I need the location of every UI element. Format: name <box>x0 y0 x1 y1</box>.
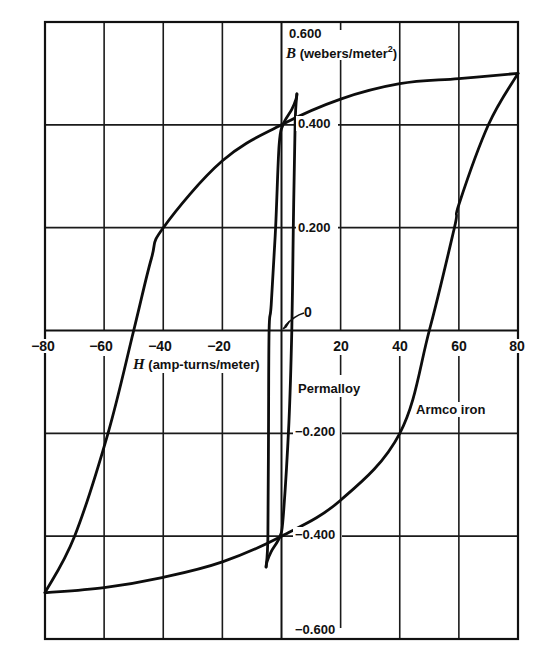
x-axis-unit: (amp-turns/meter) <box>148 357 259 372</box>
series-label-permalloy: Permalloy <box>296 381 362 396</box>
x-axis-variable: H <box>133 356 145 372</box>
y-tick-neg-0.200: −0.200 <box>293 424 337 439</box>
x-tick-40: 40 <box>391 339 409 353</box>
x-tick-neg-80: −80 <box>30 339 56 353</box>
y-axis-unit-close: ) <box>393 46 397 61</box>
origin-leader-arrow <box>283 313 304 329</box>
origin-label: 0 <box>304 305 312 319</box>
x-tick-neg-20: −20 <box>206 339 232 353</box>
hysteresis-chart <box>0 0 543 647</box>
y-tick-neg-0.400: −0.400 <box>293 527 337 542</box>
y-tick-neg-0.600: −0.600 <box>293 622 337 637</box>
grid-lines <box>45 22 518 639</box>
x-tick-neg-40: −40 <box>147 339 173 353</box>
x-tick-80: 80 <box>508 339 526 353</box>
x-axis-title: H (amp-turns/meter) <box>131 356 262 373</box>
y-tick-0.200: 0.200 <box>296 220 333 235</box>
x-tick-60: 60 <box>450 339 468 353</box>
x-tick-20: 20 <box>332 339 350 353</box>
y-tick-0.400: 0.400 <box>296 116 333 131</box>
series-label-armco-iron: Armco iron <box>414 402 487 417</box>
x-tick-neg-60: −60 <box>88 339 114 353</box>
y-tick-0.600: 0.600 <box>287 26 324 41</box>
y-axis-title: B (webers/meter2) <box>284 44 399 62</box>
y-axis-unit: (webers/meter <box>300 46 388 61</box>
y-axis-variable: B <box>286 45 296 61</box>
